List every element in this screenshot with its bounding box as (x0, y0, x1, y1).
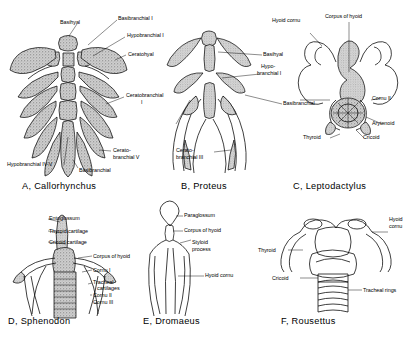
label-d-tracheal-cartilages-line2: cartilages (97, 285, 120, 291)
caption-d: D, Sphenodon (8, 316, 70, 326)
label-a-ceratobranchial-v-line1: Cerato- (113, 147, 131, 153)
label-a-hypobranchial-iv-v: Hypobranchial IV-V (7, 161, 52, 167)
comparative-anatomy-plate: Basihyal Basibranchial I Hypobranchial I… (0, 0, 407, 340)
caption-e: E, Dromaeus (143, 316, 200, 326)
label-c-corpus-of-hyoid: Corpus of hyoid (325, 13, 362, 19)
label-f-cricoid: Cricoid (272, 275, 288, 281)
label-d-cornu-iii: Cornu III (93, 299, 113, 305)
label-f-thyroid: Thyroid (258, 247, 276, 253)
caption-b: B, Proteus (181, 181, 227, 191)
caption-a: A, Callorhynchus (22, 181, 96, 191)
label-e-styloid-process-line1: Styloid (192, 239, 208, 245)
label-f-hyoid-cornu-line2: cornu (389, 223, 402, 229)
label-f-tracheal-rings: Tracheal rings (363, 287, 396, 293)
label-b-ceratobranchial-iii-line1: Cerato- (176, 147, 194, 153)
label-a-basihyal: Basihyal (60, 19, 80, 25)
label-c-cornu-ii: Cornu II (372, 95, 391, 101)
label-b-basihyal: Basihyal (263, 51, 283, 57)
label-a-ceratobranchial-v-line2: branchial V (113, 154, 139, 160)
label-a-hypobranchial-i: Hypobranchial I (127, 32, 164, 38)
label-b-hypobranchial-i-line2: branchial I (257, 70, 281, 76)
label-a-basibranchial-i: Basibranchial I (118, 15, 153, 21)
label-d-corpus-of-hyoid: Corpus of hyoid (93, 253, 130, 259)
label-b-hypobranchial-i-line1: Hypo- (261, 63, 275, 69)
label-b-ceratobranchial-iii-line2: branchial III (176, 154, 203, 160)
caption-f: F, Rousettus (281, 316, 336, 326)
label-e-styloid-process-line2: process (192, 246, 211, 252)
label-d-thyroid-cartilage: Thyroid cartilage (49, 228, 88, 234)
label-e-paraglossum: Paraglossum (184, 212, 215, 218)
label-a-ceratobranchial-i-numeral: I (141, 99, 142, 105)
label-c-hyoid-cornu: Hyoid cornu (272, 17, 300, 23)
plate-artwork (0, 0, 407, 340)
label-d-cricoid-cartilage: Cricoid cartilage (49, 239, 87, 245)
label-c-cricoid: Cricoid (363, 134, 379, 140)
label-d-cornu-ii: Cornu II (93, 292, 112, 298)
label-b-basibranchial: Basibranchial (283, 100, 315, 106)
label-c-arytenoid: Arytenoid (372, 120, 394, 126)
caption-c: C, Leptodactylus (293, 181, 366, 191)
figure-f-artwork (281, 219, 391, 312)
label-d-cornu-i: Cornu I (93, 267, 110, 273)
label-f-hyoid-cornu-line1: Hyoid (389, 216, 403, 222)
label-a-basibranchial: Basibranchial (79, 167, 111, 173)
figure-e-artwork (149, 201, 204, 316)
figure-a-artwork (10, 20, 127, 177)
label-a-ceratohyal: Ceratohyal (128, 51, 154, 57)
label-a-ceratobranchial-i: Ceratobranchial (126, 92, 163, 98)
label-e-hyoid-cornu: Hyoid cornu (205, 272, 233, 278)
label-c-thyroid: Thyroid (303, 134, 321, 140)
label-e-corpus-of-hyoid: Corpus of hyoid (184, 227, 221, 233)
label-d-entoglossum: Entoglossum (49, 215, 80, 221)
